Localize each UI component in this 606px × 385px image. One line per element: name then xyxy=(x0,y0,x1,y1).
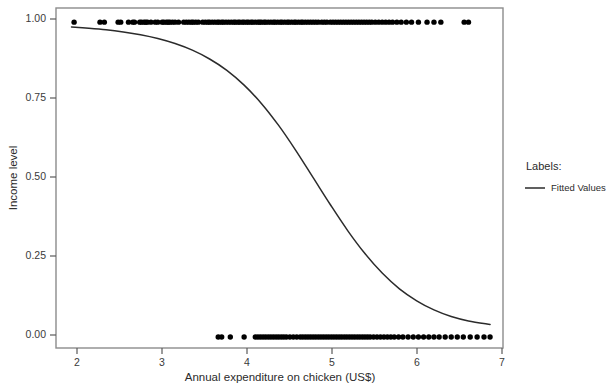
scatter-point xyxy=(416,19,421,24)
y-tick-label: 0.75 xyxy=(26,91,47,103)
scatter-point xyxy=(219,334,224,339)
x-axis-tick-labels: 2 3 4 5 6 7 xyxy=(74,356,505,368)
scatter-point xyxy=(228,334,233,339)
scatter-point xyxy=(132,19,137,24)
legend: Labels: Fitted Values xyxy=(525,160,606,193)
scatter-point xyxy=(411,334,416,339)
scatter-point xyxy=(421,334,426,339)
scatter-point xyxy=(241,334,246,339)
scatter-point xyxy=(438,19,443,24)
scatter-point xyxy=(71,19,76,24)
y-axis-title: Income level xyxy=(7,146,19,211)
scatter-point xyxy=(442,334,447,339)
scatter-point xyxy=(461,334,466,339)
cropped-caption-sliver xyxy=(4,381,154,385)
figure-container: 1.00 0.75 0.50 0.25 0.00 2 3 4 5 6 7 xyxy=(0,0,606,385)
scatter-point xyxy=(400,334,405,339)
scatter-point xyxy=(481,334,486,339)
scatter-point xyxy=(416,334,421,339)
x-tick-label: 5 xyxy=(329,356,335,368)
x-tick-label: 2 xyxy=(74,356,80,368)
scatter-point xyxy=(426,334,431,339)
scatter-point xyxy=(436,334,441,339)
scatter-point xyxy=(487,334,492,339)
scatter-point xyxy=(102,19,107,24)
scatter-point xyxy=(176,19,181,24)
y-tick-label: 0.25 xyxy=(26,249,47,261)
scatter-point xyxy=(449,334,454,339)
x-axis-title: Annual expenditure on chicken (US$) xyxy=(185,371,376,383)
scatter-point xyxy=(431,334,436,339)
scatter-point xyxy=(466,19,471,24)
scatter-point xyxy=(468,334,473,339)
scatter-points-level-0 xyxy=(216,334,493,339)
scatter-point xyxy=(431,19,436,24)
x-tick-label: 6 xyxy=(414,356,420,368)
plot-panel-background xyxy=(56,8,503,348)
y-axis-tick-labels: 1.00 0.75 0.50 0.25 0.00 xyxy=(26,12,47,340)
scatter-point xyxy=(455,334,460,339)
x-tick-label: 7 xyxy=(499,356,505,368)
scatter-point xyxy=(398,19,403,24)
y-tick-label: 0.00 xyxy=(26,328,47,340)
x-tick-label: 4 xyxy=(244,356,250,368)
x-tick-label: 3 xyxy=(159,356,165,368)
scatter-point xyxy=(118,19,123,24)
y-tick-label: 0.50 xyxy=(26,170,47,182)
legend-entry-label: Fitted Values xyxy=(551,182,606,193)
y-axis-ticks xyxy=(50,19,56,335)
scatter-point xyxy=(404,19,409,24)
y-tick-label: 1.00 xyxy=(26,12,47,24)
scatter-point xyxy=(424,19,429,24)
scatter-point xyxy=(409,19,414,24)
scatter-points-level-1 xyxy=(71,19,471,24)
chart-svg: 1.00 0.75 0.50 0.25 0.00 2 3 4 5 6 7 xyxy=(0,0,606,385)
legend-title: Labels: xyxy=(526,160,561,172)
x-axis-ticks xyxy=(77,348,502,354)
scatter-point xyxy=(474,334,479,339)
scatter-point xyxy=(405,334,410,339)
